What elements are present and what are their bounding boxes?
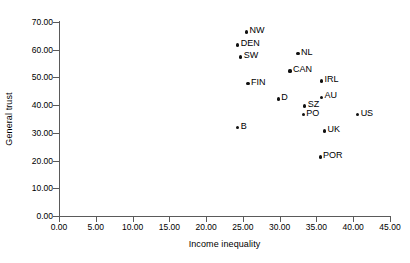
data-point-label: NL — [301, 48, 313, 57]
data-point-marker — [323, 129, 326, 132]
y-tick-label: 20.00 — [9, 157, 53, 166]
data-point-marker — [277, 97, 280, 100]
x-axis-line — [59, 216, 391, 217]
y-axis-line — [59, 21, 60, 217]
y-tick-label: 50.00 — [9, 73, 53, 82]
data-point-marker — [320, 96, 323, 99]
data-point-label: DEN — [241, 39, 260, 48]
data-point-marker — [356, 113, 359, 116]
data-point-marker — [246, 82, 249, 85]
data-point-label: SW — [244, 51, 259, 60]
data-point-marker — [302, 113, 305, 116]
y-tick-label: 0.00 — [9, 212, 53, 221]
data-point-marker — [288, 69, 291, 72]
data-point-label: FIN — [251, 78, 266, 87]
y-axis-title-text: General trust — [4, 74, 14, 164]
data-point-label: POR — [323, 151, 343, 160]
data-point-marker — [245, 30, 248, 33]
data-point-marker — [236, 126, 239, 129]
y-tick-mark — [53, 77, 59, 78]
data-point-label: B — [241, 122, 247, 131]
data-point-label: D — [281, 93, 288, 102]
data-point-label: IRL — [325, 75, 339, 84]
data-point-label: AU — [325, 91, 338, 100]
y-tick-mark — [53, 22, 59, 23]
data-point-label: US — [361, 109, 374, 118]
data-point-label: NW — [250, 26, 265, 35]
data-point-marker — [236, 43, 239, 46]
y-tick-label: 60.00 — [9, 46, 53, 55]
y-tick-mark — [53, 188, 59, 189]
y-tick-label: 10.00 — [9, 184, 53, 193]
y-tick-mark — [53, 133, 59, 134]
data-point-marker — [239, 55, 242, 58]
data-point-marker — [319, 155, 322, 158]
y-tick-mark — [53, 50, 59, 51]
data-point-label: UK — [328, 125, 341, 134]
data-point-marker — [296, 52, 299, 55]
y-tick-label: 40.00 — [9, 101, 53, 110]
y-tick-mark — [53, 161, 59, 162]
y-tick-mark — [53, 105, 59, 106]
x-tick-label: 45.00 — [368, 222, 410, 232]
y-tick-label: 30.00 — [9, 129, 53, 138]
data-point-label: PO — [306, 109, 319, 118]
x-axis-title: Income inequality — [59, 239, 390, 249]
scatter-chart: General trust 0.0010.0020.0030.0040.0050… — [0, 0, 410, 263]
data-point-marker — [320, 79, 323, 82]
y-tick-label: 70.00 — [9, 18, 53, 27]
data-point-label: CAN — [293, 65, 312, 74]
